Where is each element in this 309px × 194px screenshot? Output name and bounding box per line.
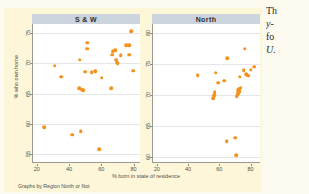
x-tick-label: 40 (61, 166, 77, 172)
y-tick-mark (30, 124, 32, 125)
scatter-point (127, 43, 131, 47)
y-gridline (153, 157, 260, 158)
scatter-point (81, 89, 85, 93)
y-tick-mark (30, 94, 32, 95)
scatter-point (131, 69, 135, 73)
scatter-point (249, 68, 253, 72)
x-tick-label: 60 (211, 166, 227, 172)
y-tick-mark (30, 33, 32, 34)
y-tick-mark (150, 126, 152, 127)
scatter-point (243, 47, 247, 51)
x-tick-label: 20 (29, 166, 45, 172)
x-tick-mark (37, 164, 38, 166)
scatter-point (213, 90, 217, 94)
y-gridline (153, 33, 260, 34)
y-tick-mark (30, 63, 32, 64)
y-tick-mark (150, 157, 152, 158)
scatter-point (247, 74, 251, 78)
side-text-line-3: fo (266, 30, 309, 43)
x-tick-mark (219, 164, 220, 166)
scatter-point (238, 90, 242, 94)
scatter-point (216, 81, 220, 85)
scatter-point (238, 75, 242, 79)
y-gridline (33, 33, 140, 34)
scatter-point (212, 93, 216, 97)
scatter-point (252, 65, 256, 69)
scatter-point (222, 79, 226, 83)
x-tick-label: 80 (243, 166, 259, 172)
scatter-point (116, 61, 120, 65)
scatter-point (53, 64, 57, 68)
y-gridline (33, 63, 140, 64)
y-tick-mark (150, 95, 152, 96)
x-tick-label: 60 (93, 166, 109, 172)
y-gridline (153, 126, 260, 127)
graph-note: Graphs by Region North or Not (18, 183, 90, 189)
scatter-point (71, 133, 75, 137)
scatter-point (196, 73, 200, 77)
scatter-point (97, 147, 101, 151)
scatter-point (119, 54, 123, 58)
scatter-point (100, 76, 104, 80)
scatter-point (109, 86, 113, 90)
x-tick-label: 40 (180, 166, 196, 172)
scatter-point (130, 29, 134, 33)
y-gridline (33, 154, 140, 155)
scatter-point (59, 75, 63, 79)
scatter-point (211, 96, 215, 100)
scatter-point (85, 41, 89, 45)
y-axis-title: % who own home (13, 55, 19, 98)
y-gridline (33, 124, 140, 125)
x-tick-label: 20 (149, 166, 165, 172)
x-axis-title: % born in state of residence (86, 173, 206, 179)
side-text-line-2: y- (266, 17, 309, 30)
y-gridline (33, 94, 140, 95)
scatter-point (233, 136, 237, 140)
y-gridline (153, 95, 260, 96)
x-tick-mark (157, 164, 158, 166)
scatter-point (214, 71, 218, 75)
plot-area-north (152, 24, 260, 163)
scatter-point (78, 58, 82, 62)
y-tick-mark (150, 33, 152, 34)
panel-title-sw: S & W (32, 14, 140, 24)
scatter-point (84, 70, 88, 74)
scatter-point (239, 86, 243, 90)
x-tick-mark (101, 164, 102, 166)
figure-root: % who own home % born in state of reside… (0, 0, 309, 194)
x-tick-mark (69, 164, 70, 166)
x-tick-mark (134, 164, 135, 166)
panel-title-north: North (152, 14, 260, 24)
page-side-text: Th y- fo U. (266, 4, 309, 56)
x-tick-mark (251, 164, 252, 166)
scatter-point (225, 140, 229, 144)
scatter-point (234, 153, 238, 157)
x-tick-mark (188, 164, 189, 166)
y-tick-mark (30, 154, 32, 155)
scatter-point (42, 126, 46, 130)
y-gridline (153, 64, 260, 65)
scatter-point (110, 53, 114, 57)
scatter-point (85, 47, 89, 51)
y-tick-mark (150, 64, 152, 65)
side-text-line-1: Th (266, 4, 309, 17)
x-tick-label: 80 (126, 166, 142, 172)
side-text-line-4: U. (266, 43, 309, 56)
plot-area-sw (32, 24, 140, 163)
scatter-point (127, 53, 131, 57)
scatter-point (79, 129, 83, 133)
scatter-point (93, 69, 97, 73)
scatter-point (226, 56, 230, 60)
scatter-point (113, 48, 117, 52)
